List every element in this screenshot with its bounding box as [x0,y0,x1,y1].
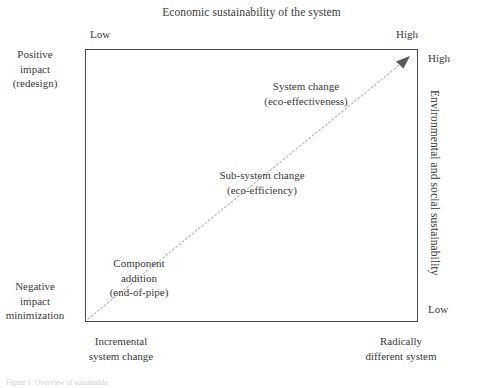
right-axis-high-label: High [428,52,450,64]
left-axis-bottom-line3: minimization [0,308,83,323]
bottom-axis-right-label: Radically different system [336,334,466,363]
node-component-addition-line1: Component [88,256,190,271]
left-axis-top-line3: (redesign) [0,76,83,91]
left-axis-top-line2: impact [0,62,83,77]
node-component-addition-line2: addition [88,271,190,286]
node-sub-system-change: Sub-system change (eco-efficiency) [201,168,323,197]
bottom-axis-left-label: Incremental system change [62,334,180,363]
node-component-addition-line3: (end-of-pipe) [88,285,190,300]
left-axis-top-line1: Positive [0,47,83,62]
figure-diagram: Economic sustainability of the system Lo… [0,0,479,388]
top-axis-low-label: Low [90,28,110,40]
left-axis-bottom-label: Negative impact minimization [0,279,83,323]
bottom-axis-left-line1: Incremental [62,334,180,349]
top-axis-high-label: High [396,28,418,40]
bottom-axis-left-line2: system change [62,349,180,364]
bottom-axis-right-line1: Radically [336,334,466,349]
bottom-axis-right-line2: different system [336,349,466,364]
right-axis-title: Environmental and social sustainability [429,90,441,276]
node-sub-system-change-line2: (eco-efficiency) [201,183,323,198]
figure-caption: Figure 1. Overview of sustainable [6,378,108,387]
top-axis-title: Economic sustainability of the system [85,6,418,18]
node-component-addition: Component addition (end-of-pipe) [88,256,190,300]
left-axis-top-label: Positive impact (redesign) [0,47,83,91]
right-axis-low-label: Low [428,303,448,315]
left-axis-bottom-line2: impact [0,294,83,309]
left-axis-bottom-line1: Negative [0,279,83,294]
node-system-change-line2: (eco-effectiveness) [254,94,358,109]
node-sub-system-change-line1: Sub-system change [201,168,323,183]
node-system-change-line1: System change [254,79,358,94]
node-system-change: System change (eco-effectiveness) [254,79,358,108]
